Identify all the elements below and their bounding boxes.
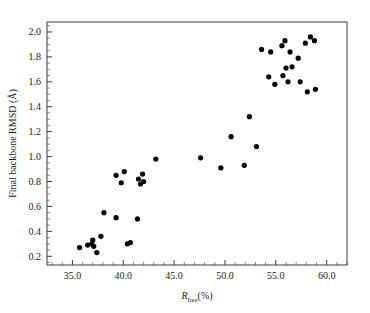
- data-point: [153, 156, 158, 161]
- x-tick-label-55.0: 55.0: [267, 270, 285, 281]
- plot-canvas: 35.040.045.050.055.060.0 0.20.40.60.81.0…: [0, 0, 370, 313]
- data-point: [272, 82, 277, 87]
- x-tick-label-40.0: 40.0: [115, 270, 133, 281]
- data-point: [91, 244, 96, 249]
- y-tick-label-2.0: 2.0: [29, 26, 42, 37]
- data-point: [94, 250, 99, 255]
- x-axis-major-ticks: [72, 260, 326, 265]
- data-point: [289, 64, 294, 69]
- data-point: [303, 41, 308, 46]
- data-point: [228, 134, 233, 139]
- x-axis-title: Rfree(%): [180, 290, 212, 303]
- data-point: [285, 79, 290, 84]
- data-point: [296, 56, 301, 61]
- data-point: [242, 163, 247, 168]
- data-points-layer: [77, 34, 318, 255]
- data-point: [266, 74, 271, 79]
- data-point: [135, 216, 140, 221]
- data-point: [101, 210, 106, 215]
- data-point: [122, 169, 127, 174]
- data-point: [298, 79, 303, 84]
- data-point: [77, 245, 82, 250]
- x-tick-label-50.0: 50.0: [216, 270, 234, 281]
- data-point: [268, 49, 273, 54]
- x-tick-label-45.0: 45.0: [165, 270, 183, 281]
- y-tick-label-1.0: 1.0: [29, 151, 42, 162]
- x-axis-tick-labels: 35.040.045.050.055.060.0: [64, 270, 336, 281]
- data-point: [305, 89, 310, 94]
- y-axis-tick-labels: 0.20.40.60.81.01.21.41.61.82.0: [29, 26, 42, 261]
- scatter-plot-figure: 35.040.045.050.055.060.0 0.20.40.60.81.0…: [0, 0, 370, 313]
- data-point: [283, 66, 288, 71]
- data-point: [114, 173, 119, 178]
- data-point: [313, 87, 318, 92]
- y-tick-label-1.4: 1.4: [29, 101, 42, 112]
- data-point: [140, 171, 145, 176]
- data-point: [90, 237, 95, 242]
- data-point: [259, 47, 264, 52]
- data-point: [136, 176, 141, 181]
- x-tick-label-60.0: 60.0: [318, 270, 336, 281]
- data-point: [287, 49, 292, 54]
- y-tick-label-1.2: 1.2: [29, 126, 42, 137]
- plot-frame-border: [47, 22, 347, 265]
- data-point: [247, 114, 252, 119]
- data-point: [279, 43, 284, 48]
- data-point: [114, 215, 119, 220]
- data-point: [254, 144, 259, 149]
- data-point: [280, 73, 285, 78]
- y-tick-label-0.6: 0.6: [29, 201, 42, 212]
- svg-text:Final backbone RMSD (Å): Final backbone RMSD (Å): [7, 89, 19, 198]
- x-tick-label-35.0: 35.0: [64, 270, 82, 281]
- y-tick-label-1.6: 1.6: [29, 76, 42, 87]
- data-point: [119, 180, 124, 185]
- data-point: [218, 165, 223, 170]
- data-point: [312, 38, 317, 43]
- y-tick-label-1.8: 1.8: [29, 51, 42, 62]
- data-point: [98, 234, 103, 239]
- y-tick-label-0.8: 0.8: [29, 176, 42, 187]
- data-point: [128, 240, 133, 245]
- data-point: [198, 155, 203, 160]
- y-axis-title: Final backbone RMSD (Å): [7, 89, 19, 198]
- y-tick-label-0.2: 0.2: [29, 251, 42, 262]
- y-tick-label-0.4: 0.4: [29, 226, 42, 237]
- svg-text:Rfree(%): Rfree(%): [180, 290, 212, 303]
- data-point: [282, 38, 287, 43]
- data-point: [308, 34, 313, 39]
- data-point: [141, 179, 146, 184]
